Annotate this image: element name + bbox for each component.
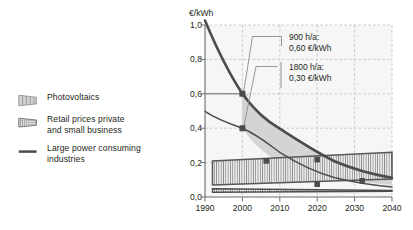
marker-2000-030 [239,125,245,131]
marker-2020-retail-lower [314,181,320,187]
annotation-1800h: 1800 h/a: 0,30 €/kWh [289,62,331,85]
marker-2000-060 [239,91,245,97]
annotation-900h: 900 h/a: 0,60 €/kWh [289,32,331,55]
marker-2032-retail-lower [359,178,365,184]
plot-area [0,0,413,230]
y-axis-ticks [201,25,206,197]
pv-cost-parity-chart: €/kWh 0,0 0,2 0,4 0,6 0,8 1,0 1990 2000 … [0,0,413,230]
marker-2007-retail-upper [263,158,269,164]
x-axis-ticks [205,197,392,202]
marker-2020-retail-upper [314,157,320,163]
